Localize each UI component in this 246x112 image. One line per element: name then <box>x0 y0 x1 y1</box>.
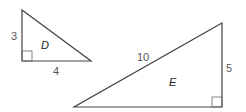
triangle-label-d: D <box>41 39 49 51</box>
triangle-e: 10 5 E <box>74 23 232 107</box>
similar-triangles-diagram: 3 4 D 10 5 E <box>0 0 246 112</box>
side-label-e-vertical: 5 <box>226 62 232 74</box>
right-angle-marker <box>212 97 222 107</box>
right-angle-marker <box>22 51 32 61</box>
triangle-d: 3 4 D <box>11 10 91 77</box>
side-label-d-vertical: 3 <box>11 30 17 42</box>
triangle-label-e: E <box>169 76 177 88</box>
side-label-d-horizontal: 4 <box>53 65 59 77</box>
side-label-e-hypotenuse: 10 <box>137 51 149 63</box>
